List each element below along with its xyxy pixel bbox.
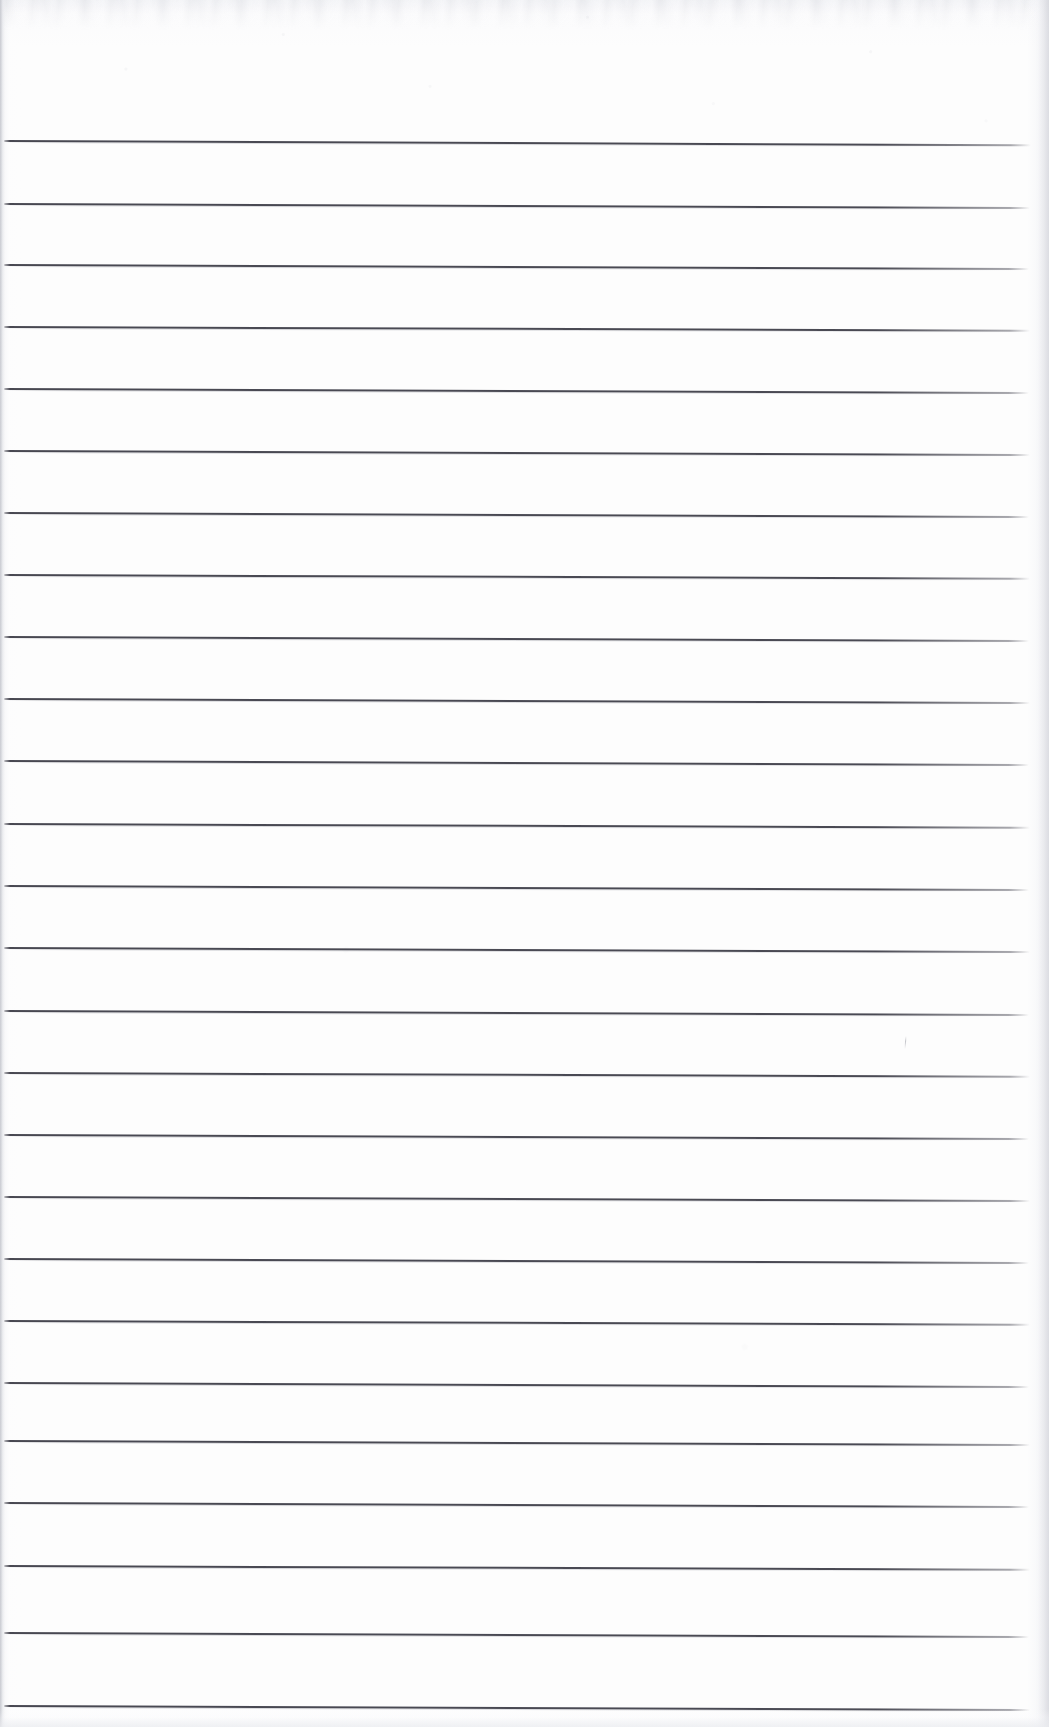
- ruled-line: [4, 1565, 1030, 1571]
- ruled-line: [4, 1502, 1029, 1508]
- scan-edge-left: [0, 0, 5, 1727]
- ruled-line: [4, 512, 1029, 518]
- ruled-line: [4, 636, 1029, 642]
- ruled-line: [4, 203, 1030, 209]
- ruled-line: [4, 140, 1031, 146]
- ruled-line: [4, 823, 1030, 829]
- ruled-line: [4, 264, 1029, 270]
- ruled-line: [4, 1320, 1030, 1326]
- ruled-line: [4, 698, 1030, 704]
- ruled-line: [4, 1382, 1029, 1388]
- ruled-line: [4, 574, 1030, 580]
- ruled-line: [4, 450, 1030, 456]
- scan-edge-right: [1027, 0, 1049, 1727]
- ruled-line: [4, 1258, 1029, 1264]
- ruled-line: [4, 1632, 1029, 1638]
- ruled-line: [4, 1196, 1030, 1202]
- ruled-line: [4, 388, 1029, 394]
- ruled-line: [4, 947, 1030, 953]
- ruled-line: [4, 1134, 1029, 1140]
- ruled-lines-layer: [0, 0, 1049, 1727]
- ruled-line: [4, 1010, 1029, 1016]
- ruled-line: [4, 760, 1029, 766]
- scan-edge-bottom: [0, 1709, 1049, 1727]
- ruled-line: [4, 1440, 1030, 1446]
- ruled-line: [4, 885, 1029, 891]
- ruled-line: [4, 326, 1030, 332]
- ruled-line: [4, 1072, 1030, 1078]
- scanned-page-root: [0, 0, 1049, 1727]
